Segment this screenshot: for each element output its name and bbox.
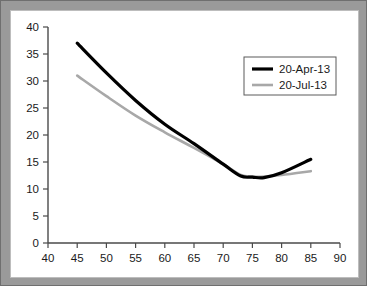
chart-legend: 20-Apr-1320-Jul-13 (244, 57, 336, 95)
x-tick-label: 65 (188, 252, 201, 264)
y-tick-label: 15 (26, 156, 39, 168)
y-tick-label: 5 (33, 210, 39, 222)
legend-label-20-jul-13: 20-Jul-13 (279, 79, 327, 91)
x-tick-label: 45 (71, 252, 84, 264)
x-tick-label: 80 (275, 252, 288, 264)
y-tick-label: 0 (33, 237, 39, 249)
legend-label-20-apr-13: 20-Apr-13 (279, 63, 330, 75)
y-tick-label: 10 (26, 183, 39, 195)
y-tick-label: 40 (26, 21, 39, 33)
x-tick-label: 90 (334, 252, 347, 264)
y-tick-label: 25 (26, 102, 39, 114)
y-tick-label: 20 (26, 129, 39, 141)
x-tick-label: 55 (129, 252, 142, 264)
y-axis-tick-labels: 0510152025303540 (26, 21, 39, 249)
plot-surface: 0510152025303540 4045505560657075808590 … (11, 11, 360, 279)
line-chart: 0510152025303540 4045505560657075808590 … (11, 11, 360, 279)
x-tick-label: 70 (217, 252, 230, 264)
x-axis-tick-labels: 4045505560657075808590 (42, 252, 347, 264)
x-tick-label: 60 (158, 252, 171, 264)
x-axis-tick-marks (48, 243, 340, 248)
y-tick-label: 30 (26, 75, 39, 87)
x-tick-label: 40 (42, 252, 55, 264)
y-axis-tick-marks (43, 27, 48, 243)
x-tick-label: 85 (304, 252, 317, 264)
chart-outer-frame: 0510152025303540 4045505560657075808590 … (0, 0, 367, 286)
x-tick-label: 75 (246, 252, 259, 264)
chart-inner-panel: 0510152025303540 4045505560657075808590 … (10, 10, 359, 278)
x-tick-label: 50 (100, 252, 113, 264)
y-tick-label: 35 (26, 48, 39, 60)
